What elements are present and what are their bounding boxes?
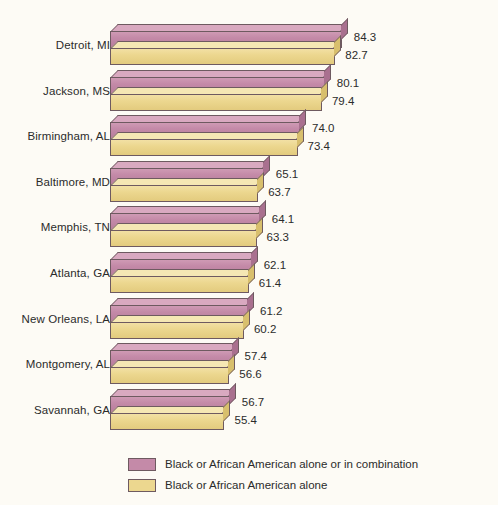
bar-group: Memphis, TN64.163.3 xyxy=(0,206,498,248)
value-label: 57.4 xyxy=(245,350,267,362)
bar-front-face xyxy=(111,323,243,338)
value-label: 73.4 xyxy=(308,140,330,152)
bar-lower[interactable] xyxy=(110,276,249,293)
bar-front-face xyxy=(111,368,228,383)
bar-wrapper: 56.755.4 xyxy=(110,389,490,431)
bar-wrapper: 64.163.3 xyxy=(110,206,490,248)
bar-top-face xyxy=(111,252,258,259)
bar-end-face xyxy=(341,18,348,40)
category-label: New Orleans, LA xyxy=(22,313,110,325)
legend-swatch xyxy=(128,479,156,492)
bar-top-face xyxy=(111,178,264,185)
bar-lower[interactable] xyxy=(110,94,322,111)
bar-front-face xyxy=(111,186,257,201)
value-label: 61.2 xyxy=(260,305,282,317)
bar-wrapper: 57.456.6 xyxy=(110,343,490,385)
value-label: 82.7 xyxy=(345,49,367,61)
bar-top-face xyxy=(111,298,254,305)
value-label: 60.2 xyxy=(254,323,276,335)
value-label: 64.1 xyxy=(272,213,294,225)
value-label: 79.4 xyxy=(332,95,354,107)
bar-top-face xyxy=(111,161,270,168)
bar-group: Savannah, GA56.755.4 xyxy=(0,389,498,431)
bar-wrapper: 65.163.7 xyxy=(110,161,490,203)
bar-top-face xyxy=(111,41,341,48)
value-label: 55.4 xyxy=(234,414,256,426)
bar-lower[interactable] xyxy=(110,48,335,65)
bar-top-face xyxy=(111,343,239,350)
bar-wrapper: 80.179.4 xyxy=(110,70,490,112)
value-label: 61.4 xyxy=(259,277,281,289)
bar-front-face xyxy=(111,414,223,429)
value-label: 65.1 xyxy=(276,168,298,180)
bar-lower[interactable] xyxy=(110,230,257,247)
bar-group: Baltimore, MD65.163.7 xyxy=(0,161,498,203)
legend-item[interactable]: Black or African American alone xyxy=(128,476,418,494)
value-label: 84.3 xyxy=(354,31,376,43)
category-label: Jackson, MS xyxy=(43,85,110,97)
bar-group: Montgomery, AL57.456.6 xyxy=(0,343,498,385)
bar-top-face xyxy=(111,315,250,322)
bar-top-face xyxy=(111,223,263,230)
bar-wrapper: 84.382.7 xyxy=(110,24,490,66)
chart-legend: Black or African American alone or in co… xyxy=(128,455,418,497)
bar-group: Jackson, MS80.179.4 xyxy=(0,70,498,112)
bar-front-face xyxy=(111,95,321,110)
bar-top-face xyxy=(111,406,230,413)
bar-top-face xyxy=(111,360,235,367)
bar-top-face xyxy=(111,206,266,213)
bar-top-face xyxy=(111,70,331,77)
bar-top-face xyxy=(111,132,304,139)
category-label: Birmingham, AL xyxy=(27,130,110,142)
category-label: Atlanta, GA xyxy=(50,267,110,279)
bar-front-face xyxy=(111,277,248,292)
bar-front-face xyxy=(111,231,256,246)
bar-wrapper: 61.260.2 xyxy=(110,298,490,340)
bar-top-face xyxy=(111,389,236,396)
bar-wrapper: 62.161.4 xyxy=(110,252,490,294)
bar-wrapper: 74.073.4 xyxy=(110,115,490,157)
bar-top-face xyxy=(111,269,255,276)
legend-item[interactable]: Black or African American alone or in co… xyxy=(128,455,418,473)
bar-lower[interactable] xyxy=(110,185,258,202)
category-label: Baltimore, MD xyxy=(36,176,110,188)
bar-lower[interactable] xyxy=(110,413,224,430)
bar-group: New Orleans, LA61.260.2 xyxy=(0,298,498,340)
category-label: Montgomery, AL xyxy=(26,358,110,370)
legend-label: Black or African American alone xyxy=(165,479,327,491)
bar-chart: Detroit, MI84.382.7Jackson, MS80.179.4Bi… xyxy=(0,0,498,505)
value-label: 80.1 xyxy=(337,77,359,89)
plot-area: Detroit, MI84.382.7Jackson, MS80.179.4Bi… xyxy=(0,0,498,452)
bar-group: Birmingham, AL74.073.4 xyxy=(0,115,498,157)
value-label: 56.7 xyxy=(242,396,264,408)
legend-swatch xyxy=(128,458,156,471)
bar-top-face xyxy=(111,87,328,94)
category-label: Savannah, GA xyxy=(34,404,110,416)
category-label: Memphis, TN xyxy=(41,221,110,233)
value-label: 63.3 xyxy=(267,231,289,243)
value-label: 56.6 xyxy=(239,368,261,380)
category-label: Detroit, MI xyxy=(56,39,110,51)
value-label: 74.0 xyxy=(312,122,334,134)
bar-lower[interactable] xyxy=(110,322,244,339)
legend-label: Black or African American alone or in co… xyxy=(165,458,418,470)
bar-front-face xyxy=(111,49,334,64)
bar-group: Detroit, MI84.382.7 xyxy=(0,24,498,66)
value-label: 62.1 xyxy=(264,259,286,271)
bar-group: Atlanta, GA62.161.4 xyxy=(0,252,498,294)
value-label: 63.7 xyxy=(268,186,290,198)
bar-top-face xyxy=(111,115,306,122)
bar-lower[interactable] xyxy=(110,367,229,384)
bar-top-face xyxy=(111,24,348,31)
bar-front-face xyxy=(111,140,297,155)
